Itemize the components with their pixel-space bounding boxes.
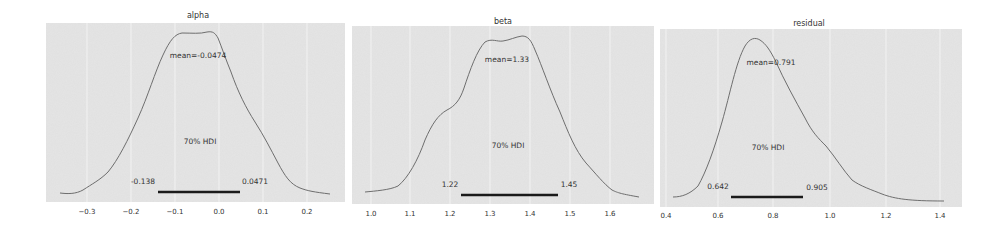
svg-text:1.0: 1.0	[365, 210, 376, 218]
svg-text:0.0: 0.0	[213, 208, 224, 216]
hdi-label: 70% HDI	[184, 137, 217, 146]
x-axis-ticks: 1.0 1.1 1.2 1.3 1.4 1.5 1.6	[365, 210, 616, 218]
hdi-low-label: 1.22	[442, 180, 459, 189]
mean-label: mean=0.791	[746, 58, 795, 67]
svg-text:1.2: 1.2	[444, 210, 455, 218]
svg-text:−0.2: −0.2	[123, 208, 140, 216]
hdi-label: 70% HDI	[492, 141, 525, 150]
panel-title: alpha	[187, 11, 209, 20]
svg-text:0.8: 0.8	[767, 212, 778, 220]
panel-alpha: alpha mean=-0.0474 70% HDI -0.138 0.0471…	[46, 11, 345, 216]
mean-label: mean=1.33	[485, 55, 529, 64]
panel-beta: beta mean=1.33 70% HDI 1.22 1.45 1.0 1.1…	[352, 17, 654, 218]
panel-residual: residual mean=0.791 70% HDI 0.642 0.905 …	[660, 19, 962, 220]
mean-label: mean=-0.0474	[170, 51, 227, 60]
svg-text:1.5: 1.5	[564, 210, 575, 218]
panel-title: residual	[793, 19, 825, 28]
svg-text:1.4: 1.4	[934, 212, 946, 220]
hdi-high-label: 1.45	[561, 180, 578, 189]
hdi-label: 70% HDI	[752, 143, 785, 152]
svg-text:−0.1: −0.1	[167, 208, 184, 216]
svg-text:1.6: 1.6	[604, 210, 616, 218]
svg-text:0.2: 0.2	[301, 208, 312, 216]
x-axis-ticks: 0.4 0.6 0.8 1.0 1.2 1.4	[660, 212, 946, 220]
hdi-high-label: 0.0471	[242, 177, 268, 186]
svg-text:0.6: 0.6	[712, 212, 724, 220]
svg-text:0.1: 0.1	[257, 208, 268, 216]
hdi-low-label: 0.642	[707, 182, 729, 191]
svg-text:1.3: 1.3	[484, 210, 495, 218]
svg-text:1.1: 1.1	[404, 210, 415, 218]
x-axis-ticks: −0.3 −0.2 −0.1 0.0 0.1 0.2	[79, 208, 313, 216]
panel-title: beta	[494, 17, 512, 26]
posterior-plot-figure: alpha mean=-0.0474 70% HDI -0.138 0.0471…	[0, 0, 1000, 227]
svg-text:1.4: 1.4	[524, 210, 536, 218]
svg-text:−0.3: −0.3	[79, 208, 96, 216]
hdi-high-label: 0.905	[806, 183, 828, 192]
hdi-low-label: -0.138	[131, 177, 155, 186]
svg-text:0.4: 0.4	[660, 212, 672, 220]
svg-text:1.2: 1.2	[880, 212, 891, 220]
svg-text:1.0: 1.0	[824, 212, 835, 220]
